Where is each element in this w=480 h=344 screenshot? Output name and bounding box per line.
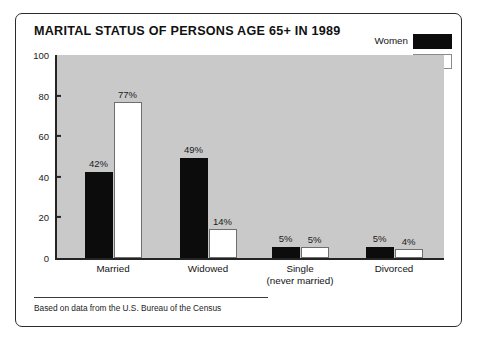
bar-men-0: 77% xyxy=(114,102,142,258)
x-category-label: Married xyxy=(96,263,129,275)
x-category-label-line: Single xyxy=(267,263,334,275)
plot-frame: 020406080100 42%77%Married49%14%Widowed5… xyxy=(55,55,444,260)
x-category-label-line: Married xyxy=(96,263,129,275)
x-category-label-line: Widowed xyxy=(188,263,228,275)
y-tick-label: 60 xyxy=(38,131,49,142)
y-tick-label: 100 xyxy=(33,50,49,61)
bar-women-0: 42% xyxy=(85,172,113,257)
bar-men-2: 5% xyxy=(301,247,329,257)
bar-women-2: 5% xyxy=(272,247,300,257)
bar-group: 5%5%Single(never married) xyxy=(272,55,329,258)
bars-layer: 42%77%Married49%14%Widowed5%5%Single(nev… xyxy=(58,55,445,258)
legend-swatch-women xyxy=(413,34,452,49)
chart-card: MARITAL STATUS OF PERSONS AGE 65+ IN 198… xyxy=(15,13,462,327)
x-category-label-line: (never married) xyxy=(267,275,334,287)
bar-value-label: 4% xyxy=(402,236,416,247)
bar-value-label: 5% xyxy=(308,234,322,245)
legend-item-women: Women xyxy=(354,34,452,50)
y-tick-label: 40 xyxy=(38,171,49,182)
footnote-divider xyxy=(34,297,268,298)
bar-value-label: 5% xyxy=(279,233,293,244)
bar-value-label: 5% xyxy=(373,233,387,244)
bar-men-1: 14% xyxy=(209,229,237,257)
bar-women-3: 5% xyxy=(366,247,394,257)
footnote-text: Based on data from the U.S. Bureau of th… xyxy=(34,303,221,313)
y-tick-label: 80 xyxy=(38,90,49,101)
bar-men-3: 4% xyxy=(395,249,423,257)
bar-value-label: 42% xyxy=(89,158,108,169)
bar-value-label: 77% xyxy=(118,89,137,100)
bar-value-label: 49% xyxy=(184,144,203,155)
bar-value-label: 14% xyxy=(213,216,232,227)
x-category-label-line: Divorced xyxy=(375,263,414,275)
bar-group: 42%77%Married xyxy=(85,55,142,258)
chart-title: MARITAL STATUS OF PERSONS AGE 65+ IN 198… xyxy=(34,24,341,38)
y-tick-label: 0 xyxy=(44,252,49,263)
legend-label-women: Women xyxy=(374,35,408,46)
bar-women-1: 49% xyxy=(180,158,208,257)
bar-group: 5%4%Divorced xyxy=(366,55,423,258)
x-category-label: Widowed xyxy=(188,263,228,275)
y-tick-label: 20 xyxy=(38,212,49,223)
bar-group: 49%14%Widowed xyxy=(180,55,237,258)
x-category-label: Single(never married) xyxy=(267,263,334,287)
x-category-label: Divorced xyxy=(375,263,414,275)
